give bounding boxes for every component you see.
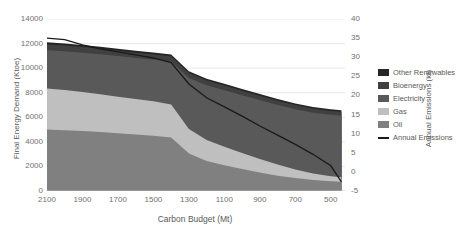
- x-axis-tick: 1700: [98, 195, 138, 204]
- y-axis-title-left: Final Energy Demand (Ktoe): [12, 39, 21, 179]
- legend-swatch-icon: [378, 121, 389, 128]
- x-axis-tick: 900: [240, 195, 280, 204]
- legend-swatch-icon: [378, 69, 389, 76]
- y-axis-right-tick: 5: [351, 148, 381, 157]
- chart-figure: Final Energy Demand (Ktoe) Annual Emissi…: [0, 0, 466, 232]
- x-axis-tick: 2100: [27, 195, 67, 204]
- x-axis-tick: 1300: [169, 195, 209, 204]
- y-axis-right-tick: 35: [351, 33, 381, 42]
- legend-item: Bioenergy: [378, 79, 466, 92]
- chart-legend: Other RenewablesBioenergyElectricityGasO…: [378, 66, 466, 144]
- y-axis-right-tick: 10: [351, 129, 381, 138]
- y-axis-right-tick: 0: [351, 167, 381, 176]
- y-axis-left-tick: 8000: [9, 88, 43, 97]
- legend-item-label: Gas: [393, 108, 407, 116]
- legend-item: Other Renewables: [378, 66, 466, 79]
- y-axis-right-tick: -5: [351, 186, 381, 195]
- plot-area: [47, 19, 345, 191]
- legend-item-label: Bioenergy: [393, 82, 427, 90]
- legend-item-label: Other Renewables: [393, 69, 455, 77]
- y-axis-left-tick: 6000: [9, 112, 43, 121]
- legend-item-label: Annual Emissions: [393, 134, 453, 142]
- y-axis-right-tick: 20: [351, 90, 381, 99]
- y-axis-left-tick: 0: [9, 186, 43, 195]
- legend-swatch-icon: [378, 108, 389, 115]
- y-axis-left-tick: 14000: [9, 14, 43, 23]
- legend-item-label: Oil: [393, 121, 402, 129]
- y-axis-right-tick: 15: [351, 110, 381, 119]
- x-axis-tick: 1900: [62, 195, 102, 204]
- x-axis-title: Carbon Budget (Mt): [45, 214, 345, 224]
- legend-swatch-icon: [378, 95, 389, 102]
- legend-swatch-icon: [378, 82, 389, 89]
- y-axis-right-tick: 40: [351, 14, 381, 23]
- x-axis-tick: 500: [311, 195, 351, 204]
- x-axis-tick: 1100: [204, 195, 244, 204]
- x-axis-tick: 1500: [133, 195, 173, 204]
- legend-item: Electricity: [378, 92, 466, 105]
- legend-item: Annual Emissions: [378, 131, 466, 144]
- y-axis-left-tick: 12000: [9, 39, 43, 48]
- y-axis-right-tick: 25: [351, 71, 381, 80]
- y-axis-left-tick: 10000: [9, 63, 43, 72]
- legend-item: Gas: [378, 105, 466, 118]
- y-axis-right-tick: 30: [351, 52, 381, 61]
- legend-item: Oil: [378, 118, 466, 131]
- legend-line-icon: [378, 137, 389, 139]
- y-axis-left-tick: 2000: [9, 161, 43, 170]
- y-axis-left-tick: 4000: [9, 137, 43, 146]
- legend-item-label: Electricity: [393, 95, 425, 103]
- x-axis-tick: 700: [275, 195, 315, 204]
